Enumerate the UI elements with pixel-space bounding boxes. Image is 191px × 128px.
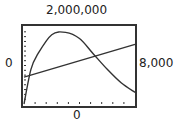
curve-series	[24, 32, 135, 104]
graph-plot	[0, 0, 191, 128]
